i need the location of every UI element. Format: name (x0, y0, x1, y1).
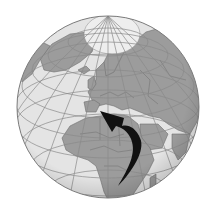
globe-figure (0, 0, 215, 215)
globe-shading (17, 16, 199, 198)
globe-svg (0, 0, 215, 215)
